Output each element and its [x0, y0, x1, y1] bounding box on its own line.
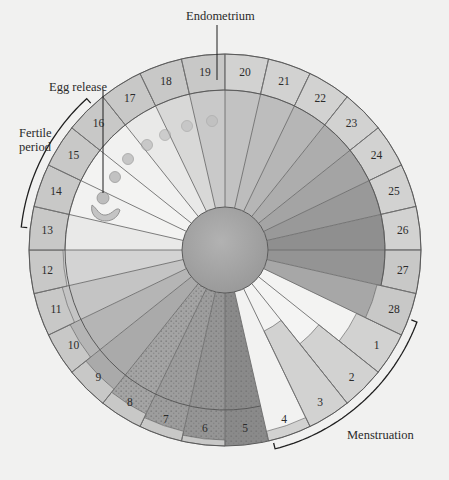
day-number-11: 11	[51, 303, 62, 315]
center-hub	[182, 207, 268, 293]
day-number-6: 6	[202, 422, 208, 434]
day-number-23: 23	[346, 117, 358, 129]
day-number-4: 4	[281, 413, 287, 425]
day-number-3: 3	[317, 396, 323, 408]
day-number-1: 1	[374, 339, 380, 351]
day-number-8: 8	[127, 396, 133, 408]
egg-icon	[182, 121, 193, 132]
endometrium-label: Endometrium	[186, 9, 255, 23]
day-number-14: 14	[50, 185, 62, 197]
day-number-17: 17	[124, 92, 136, 104]
egg-icon	[97, 192, 109, 204]
egg-icon	[207, 116, 218, 127]
menstruation-label: Menstruation	[347, 428, 414, 442]
day-number-22: 22	[314, 92, 326, 104]
day-number-9: 9	[96, 371, 102, 383]
egg-release-label: Egg release	[49, 80, 107, 94]
day-number-13: 13	[41, 224, 53, 236]
day-number-19: 19	[199, 66, 211, 78]
fertile-period-label-line1: Fertile	[19, 126, 52, 140]
egg-icon	[142, 140, 153, 151]
day-number-18: 18	[160, 75, 172, 87]
egg-icon	[123, 154, 134, 165]
day-number-5: 5	[242, 422, 248, 434]
day-number-10: 10	[68, 339, 80, 351]
day-number-25: 25	[388, 185, 400, 197]
day-number-7: 7	[163, 413, 169, 425]
egg-icon	[110, 172, 121, 183]
day-number-20: 20	[239, 66, 251, 78]
day-number-2: 2	[349, 371, 355, 383]
day-number-27: 27	[397, 264, 409, 276]
day-number-21: 21	[278, 75, 290, 87]
day-number-26: 26	[397, 224, 409, 236]
day-number-12: 12	[41, 264, 53, 276]
day-number-28: 28	[388, 303, 400, 315]
day-number-15: 15	[68, 149, 80, 161]
menstrual-cycle-diagram: 1234567891011121314151617181920212223242…	[0, 0, 449, 480]
egg-icon	[160, 130, 171, 141]
day-number-24: 24	[371, 149, 383, 161]
fertile-period-label-line2: period	[19, 140, 51, 154]
